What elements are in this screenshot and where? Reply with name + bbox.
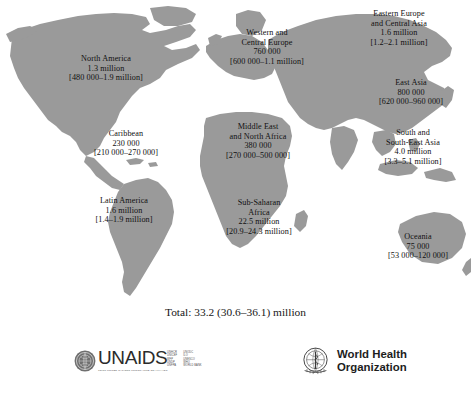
region-range: [210 000–270 000] — [64, 148, 188, 158]
region-range: [1.4–1.9 million] — [62, 215, 186, 225]
region-value: 380 000 — [194, 141, 322, 151]
region-value: 800 000 — [352, 88, 470, 98]
region-name: Caribbean — [64, 129, 188, 139]
region-name-line1: Sub-Saharan — [196, 198, 322, 208]
region-range: [270 000–500 000] — [194, 151, 322, 161]
central-america-landmass — [84, 156, 124, 190]
region-name-line2: and Central Asia — [334, 19, 464, 29]
region-value: 75 000 — [366, 242, 470, 252]
region-value: 1.6 million — [62, 206, 186, 216]
region-label-latin-america: Latin America 1.6 million [1.4–1.9 milli… — [62, 196, 186, 225]
region-name-line1: South and — [356, 128, 470, 138]
footer-logos: UNAIDS JOINT UNITED NATIONS PROGRAMME ON… — [0, 340, 471, 395]
new-guinea-landmass — [424, 168, 456, 182]
region-label-eastern-europe-and-central-asia: Eastern Europe and Central Asia 1.6 mill… — [334, 9, 464, 47]
total-label: Total: 33.2 (30.6–36.1) million — [0, 306, 471, 318]
region-name-line1: Western and — [203, 28, 331, 38]
who-wordmark: World Health Organization — [337, 348, 407, 374]
region-label-east-asia: East Asia 800 000 [620 000–960 000] — [352, 78, 470, 107]
unaids-cosponsor-list: UNHCR UNICEF WFP UNDP UNFPA UNODC ILO UN… — [167, 351, 202, 367]
unaids-logo: UNAIDS JOINT UNITED NATIONS PROGRAMME ON… — [74, 348, 168, 373]
region-name-line2: Central Europe — [203, 38, 331, 48]
region-name-line2: South-East Asia — [356, 138, 470, 148]
unaids-wordmark: UNAIDS — [98, 348, 168, 368]
region-value: 1.3 million — [38, 64, 174, 74]
greenland-landmass — [150, 6, 196, 26]
who-logo: World Health Organization — [300, 345, 407, 376]
region-label-south-and-south-east-asia: South and South-East Asia 4.0 million [3… — [356, 128, 470, 166]
region-name: North America — [38, 54, 174, 64]
unaids-tagline: JOINT UNITED NATIONS PROGRAMME ON HIV/AI… — [98, 369, 168, 373]
region-label-western-and-central-europe: Western and Central Europe 760 000 [600 … — [203, 28, 331, 66]
region-name-line1: Eastern Europe — [334, 9, 464, 19]
who-wordmark-line1: World Health — [337, 348, 407, 361]
who-wordmark-line2: Organization — [337, 361, 407, 374]
region-name-line2: Africa — [196, 208, 322, 218]
region-name: Latin America — [62, 196, 186, 206]
region-value: 22.5 million — [196, 217, 322, 227]
hiv-prevalence-world-map-figure: North America 1.3 million [480 000–1.9 m… — [0, 0, 471, 403]
region-label-middle-east-and-north-africa: Middle East and North Africa 380 000 [27… — [194, 122, 322, 160]
region-name-line2: and North Africa — [194, 132, 322, 142]
region-value: 760 000 — [203, 47, 331, 57]
unaids-emblem-icon — [74, 350, 96, 372]
caribbean-islands — [126, 158, 144, 165]
region-range: [53 000–120 000] — [366, 251, 470, 261]
region-range: [3.3–5.1 million] — [356, 157, 470, 167]
cosponsor-item: UNFPA — [167, 364, 177, 367]
india-landmass — [330, 126, 358, 170]
region-name: East Asia — [352, 78, 470, 88]
region-range: [1.2–2.1 million] — [334, 38, 464, 48]
region-name-line1: Middle East — [194, 122, 322, 132]
region-label-sub-saharan-africa: Sub-Saharan Africa 22.5 million [20.9–24… — [196, 198, 322, 236]
region-value: 4.0 million — [356, 147, 470, 157]
caribbean-island-2 — [148, 162, 158, 167]
region-range: [600 000–1.1 million] — [203, 57, 331, 67]
region-value: 230 000 — [64, 139, 188, 149]
region-range: [480 000–1.9 million] — [38, 73, 174, 83]
region-label-caribbean: Caribbean 230 000 [210 000–270 000] — [64, 129, 188, 158]
region-label-oceania: Oceania 75 000 [53 000–120 000] — [366, 232, 470, 261]
unaids-text-block: UNAIDS JOINT UNITED NATIONS PROGRAMME ON… — [98, 348, 168, 373]
region-range: [20.9–24.3 million] — [196, 227, 322, 237]
cosponsor-column-right: UNODC ILO UNESCO WHO WORLD BANK — [183, 351, 201, 367]
region-label-north-america: North America 1.3 million [480 000–1.9 m… — [38, 54, 174, 83]
cosponsor-column-left: UNHCR UNICEF WFP UNDP UNFPA — [167, 351, 177, 367]
region-value: 1.6 million — [334, 28, 464, 38]
region-range: [620 000–960 000] — [352, 97, 470, 107]
cosponsor-item: WORLD BANK — [183, 364, 201, 367]
who-emblem-icon — [300, 345, 331, 376]
region-name: Oceania — [366, 232, 470, 242]
